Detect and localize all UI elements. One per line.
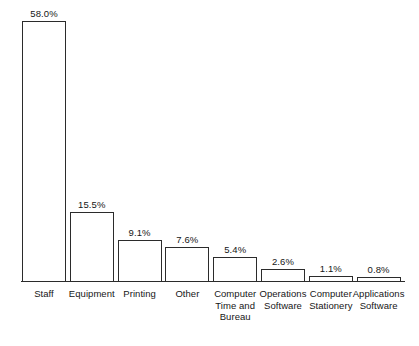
plot-area: 58.0%15.5%9.1%7.6%5.4%2.6%1.1%0.8% — [0, 0, 419, 283]
x-axis-baseline — [21, 281, 405, 282]
bar — [261, 269, 305, 281]
bar-group: 2.6% — [261, 0, 305, 281]
bar-group: 0.8% — [357, 0, 401, 281]
bars-layer: 58.0%15.5%9.1%7.6%5.4%2.6%1.1%0.8% — [0, 0, 419, 283]
x-axis-tick-label: Applications Software — [345, 288, 413, 311]
bar-group: 1.1% — [309, 0, 353, 281]
bar — [70, 212, 114, 281]
bar-value-label: 7.6% — [176, 234, 198, 245]
bar-group: 15.5% — [70, 0, 114, 281]
bar-group: 7.6% — [165, 0, 209, 281]
bar — [213, 257, 257, 281]
bar-value-label: 15.5% — [78, 199, 105, 210]
bar-value-label: 58.0% — [30, 8, 57, 19]
bar-value-label: 2.6% — [272, 256, 294, 267]
bar-group: 5.4% — [213, 0, 257, 281]
bar — [165, 247, 209, 281]
bar-chart: 58.0%15.5%9.1%7.6%5.4%2.6%1.1%0.8% Staff… — [0, 0, 419, 346]
bar-group: 58.0% — [22, 0, 66, 281]
bar-value-label: 0.8% — [368, 264, 390, 275]
bar — [22, 21, 66, 281]
bar-group: 9.1% — [118, 0, 162, 281]
bar-value-label: 1.1% — [320, 263, 342, 274]
category-labels: StaffEquipmentPrintingOtherComputer Time… — [0, 288, 419, 346]
bar-value-label: 9.1% — [129, 227, 151, 238]
bar — [118, 240, 162, 281]
bar-value-label: 5.4% — [224, 244, 246, 255]
